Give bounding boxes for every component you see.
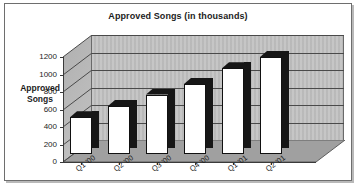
bar-side-face [282, 51, 289, 148]
bar-column[interactable] [184, 78, 213, 154]
y-axis-tick-label: 1000 [23, 71, 57, 79]
plot-area: 020040060080010001200 Q1 '00Q2 '00Q3 '00… [63, 35, 347, 160]
bar-column[interactable] [70, 111, 99, 154]
y-axis-tick-label: 400 [23, 123, 57, 131]
gridline [92, 88, 344, 89]
bar-front-face [146, 95, 168, 155]
bar-front-face [222, 68, 244, 154]
bar-column[interactable] [260, 51, 289, 154]
bar-side-face [206, 78, 213, 148]
bar-side-face [130, 100, 137, 148]
bar-front-face [70, 117, 92, 154]
gridline [92, 53, 344, 54]
y-axis-tick-label: 1200 [23, 53, 57, 61]
bar-column[interactable] [146, 89, 175, 155]
y-axis-tick-label: 200 [23, 141, 57, 149]
bar-side-face [244, 62, 251, 148]
gridline [92, 35, 344, 36]
bar-column[interactable] [222, 62, 251, 154]
bar-column[interactable] [108, 100, 137, 154]
y-axis-tick-label: 600 [23, 106, 57, 114]
y-axis-line [63, 57, 64, 162]
bar-front-face [108, 106, 130, 154]
bar-side-face [92, 111, 99, 148]
bar-front-face [184, 84, 206, 154]
bar-front-face [260, 57, 282, 154]
gridline [92, 70, 344, 71]
chart-frame: Approved Songs (in thousands) Approved S… [4, 3, 352, 181]
y-axis-tick-label: 800 [23, 88, 57, 96]
chart-title: Approved Songs (in thousands) [5, 11, 351, 21]
y-axis-tick-label: 0 [23, 158, 57, 166]
bar-side-face [168, 89, 175, 149]
